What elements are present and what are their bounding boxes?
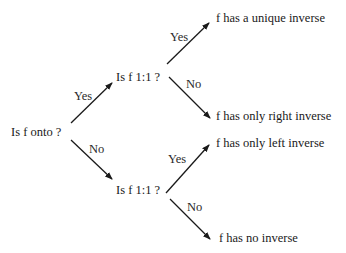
root-question: Is f onto ?: [11, 126, 61, 139]
upper-question: Is f 1:1 ?: [116, 71, 160, 84]
edge-label-lower-no: No: [187, 201, 202, 214]
edge-label-upper-no: No: [186, 78, 201, 91]
edge-label-lower-yes: Yes: [168, 153, 186, 166]
edge-label-upper-yes: Yes: [170, 31, 188, 44]
outcome-no-inverse: f has no inverse: [219, 232, 298, 245]
outcome-unique-inverse: f has a unique inverse: [216, 12, 325, 25]
edge-label-root-no: No: [89, 143, 104, 156]
outcome-left-inverse: f has only left inverse: [216, 137, 324, 150]
edge-label-root-yes: Yes: [74, 90, 92, 103]
outcome-right-inverse: f has only right inverse: [216, 110, 331, 123]
lower-question: Is f 1:1 ?: [116, 184, 160, 197]
